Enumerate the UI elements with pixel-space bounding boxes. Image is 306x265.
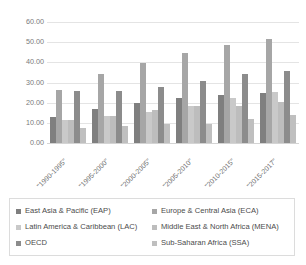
x-axis-tick-label: "1990-1995" — [35, 157, 67, 189]
bar — [182, 53, 187, 143]
bar — [158, 87, 163, 143]
bar — [248, 119, 253, 143]
chart-legend: East Asia & Pacific (EAP)Europe & Centra… — [9, 198, 295, 256]
bar — [50, 117, 55, 143]
y-axis-tick-label: 20.00 — [8, 99, 44, 106]
bar — [230, 98, 235, 143]
bar-group — [47, 0, 89, 150]
legend-label: Latin America & Caribbean (LAC) — [25, 223, 137, 231]
bar — [110, 116, 115, 143]
bar — [188, 106, 193, 143]
bar — [146, 112, 151, 143]
bar — [104, 116, 109, 143]
bar — [176, 98, 181, 143]
bar-group — [131, 0, 173, 150]
legend-swatch-icon — [152, 241, 157, 246]
bar — [242, 74, 247, 143]
legend-item[interactable]: Latin America & Caribbean (LAC) — [16, 219, 152, 235]
legend-label: East Asia & Pacific (EAP) — [25, 207, 111, 215]
legend-swatch-icon — [152, 225, 157, 230]
bar — [272, 92, 277, 143]
bar-group — [89, 0, 131, 150]
bar — [134, 103, 139, 143]
legend-swatch-icon — [16, 241, 21, 246]
legend-label: OECD — [25, 239, 47, 247]
y-axis-tick-label: 50.00 — [8, 39, 44, 46]
bar — [206, 124, 211, 143]
legend-item[interactable]: Sub-Saharan Africa (SSA) — [152, 235, 288, 251]
y-axis: 0.0010.0020.0030.0040.0050.0060.00 — [8, 0, 44, 150]
bar — [236, 106, 241, 143]
y-axis-tick-label: 0.00 — [8, 139, 44, 146]
bar — [290, 115, 295, 143]
x-axis-tick-label: "2015-2017" — [245, 157, 277, 189]
bar — [74, 91, 79, 143]
bar — [98, 74, 103, 143]
bar — [116, 91, 121, 143]
bar-chart: 0.0010.0020.0030.0040.0050.0060.00 "1990… — [0, 0, 306, 265]
bar-group — [257, 0, 299, 150]
bar-group — [173, 0, 215, 150]
bar — [62, 120, 67, 143]
bar — [140, 63, 145, 143]
bar — [218, 95, 223, 143]
x-axis-tick-label: "2005-2010" — [161, 157, 193, 189]
y-axis-tick-label: 60.00 — [8, 18, 44, 25]
bar — [152, 110, 157, 143]
bar — [164, 124, 169, 143]
bar — [92, 109, 97, 143]
legend-label: Middle East & North Africa (MENA) — [161, 223, 279, 231]
y-axis-tick-label: 10.00 — [8, 119, 44, 126]
bar — [278, 102, 283, 143]
bar — [284, 71, 289, 143]
legend-item[interactable]: Europe & Central Asia (ECA) — [152, 203, 288, 219]
legend-item[interactable]: Middle East & North Africa (MENA) — [152, 219, 288, 235]
bar-group — [215, 0, 257, 150]
bar — [200, 81, 205, 143]
bar — [266, 39, 271, 143]
legend-label: Europe & Central Asia (ECA) — [161, 207, 259, 215]
bar — [194, 106, 199, 143]
y-axis-tick-label: 30.00 — [8, 79, 44, 86]
bar — [122, 126, 127, 143]
legend-swatch-icon — [16, 209, 21, 214]
x-axis: "1990-1995""1995-2000""2000-2005""2005-2… — [47, 150, 299, 195]
x-axis-tick-label: "1995-2000" — [77, 157, 109, 189]
legend-item[interactable]: East Asia & Pacific (EAP) — [16, 203, 152, 219]
legend-label: Sub-Saharan Africa (SSA) — [161, 239, 249, 247]
legend-swatch-icon — [16, 225, 21, 230]
legend-swatch-icon — [152, 209, 157, 214]
bar — [260, 93, 265, 143]
y-axis-tick-label: 40.00 — [8, 59, 44, 66]
bar — [56, 90, 61, 143]
x-axis-tick-label: "2000-2005" — [119, 157, 151, 189]
bar — [224, 45, 229, 143]
bar-groups — [47, 0, 299, 150]
bar — [68, 120, 73, 143]
plot-area: 0.0010.0020.0030.0040.0050.0060.00 — [0, 0, 306, 150]
x-axis-tick-label: "2010-2015" — [203, 157, 235, 189]
legend-item[interactable]: OECD — [16, 235, 152, 251]
bar — [80, 128, 85, 143]
